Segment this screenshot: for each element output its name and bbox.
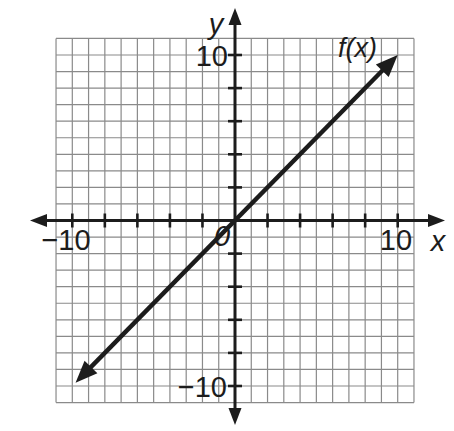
y-tick-label-pos10: 10 — [196, 40, 228, 72]
y-tick-label-neg10: −10 — [178, 371, 227, 403]
x-tick-label-pos10: 10 — [380, 224, 412, 256]
origin-label: 0 — [214, 220, 230, 252]
graph-page: y 10 f(x) −10 0 10 x −10 — [0, 0, 454, 431]
function-label: f(x) — [338, 33, 377, 63]
y-axis-label: y — [207, 8, 225, 40]
x-axis-label: x — [429, 225, 447, 257]
x-tick-label-neg10: −10 — [41, 224, 90, 256]
function-graph: y 10 f(x) −10 0 10 x −10 — [0, 0, 454, 431]
